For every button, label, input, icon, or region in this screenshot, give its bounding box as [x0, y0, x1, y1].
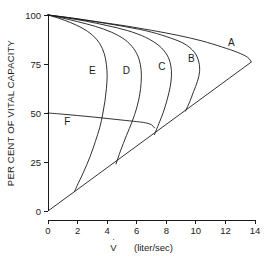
y-axis-title: PER CENT OF VITAL CAPACITY [5, 39, 16, 186]
effort-peak-line [48, 62, 251, 211]
curve-label-F: F [64, 116, 70, 127]
x-axis-ticks [48, 220, 255, 224]
y-axis-ticks [44, 15, 48, 211]
x-tick-label-10: 10 [191, 225, 202, 236]
curve-label-E: E [89, 65, 96, 76]
y-tick-label-0: 0 [36, 206, 41, 217]
y-tick-label-100: 100 [25, 10, 41, 21]
x-axis-title-units: (liter/sec) [134, 242, 173, 253]
x-tick-label-6: 6 [134, 225, 139, 236]
y-tick-label-25: 25 [30, 157, 41, 168]
y-tick-label-50: 50 [30, 108, 41, 119]
x-tick-label-12: 12 [220, 225, 231, 236]
x-tick-label-8: 8 [164, 225, 169, 236]
x-tick-label-4: 4 [104, 225, 109, 236]
curve-label-D: D [123, 65, 130, 76]
chart-axes [44, 14, 255, 224]
x-tick-label-0: 0 [45, 225, 50, 236]
x-tick-label-2: 2 [75, 225, 80, 236]
y-tick-label-75: 75 [30, 59, 41, 70]
flow-volume-chart: 0255075100 02468101214 ABCDEF PER CENT O… [0, 0, 273, 259]
y-tick-labels: 0255075100 [25, 10, 41, 217]
x-tick-label-14: 14 [250, 225, 261, 236]
x-tick-labels: 02468101214 [45, 225, 260, 236]
curve-label-C: C [158, 61, 165, 72]
curve-annotations: ABCDEF [64, 37, 235, 126]
curve-label-A: A [228, 37, 235, 48]
x-axis-title-symbol: V [110, 242, 117, 253]
chart-svg: 0255075100 02468101214 ABCDEF PER CENT O… [0, 0, 273, 259]
curve-E [48, 15, 107, 191]
chart-curves [48, 15, 251, 211]
x-axis-title-dot-accent: ̇ [113, 239, 115, 240]
curve-label-B: B [188, 53, 195, 64]
